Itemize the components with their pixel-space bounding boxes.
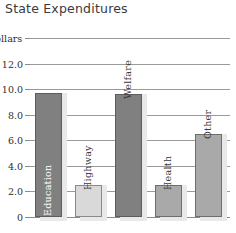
chart-container: State Expenditures 02.04.06.08.010.012.0…	[0, 0, 236, 233]
chart-title: State Expenditures	[5, 1, 128, 16]
y-axis-tick	[25, 166, 30, 167]
bar-welfare[interactable]	[115, 94, 142, 217]
bar-other[interactable]	[195, 134, 222, 217]
y-axis-tick-label: 4.0	[8, 160, 23, 171]
gridline	[30, 38, 230, 39]
y-axis-tick	[25, 140, 30, 141]
plot-area: 02.04.06.08.010.012.014.014.0 billion do…	[30, 38, 230, 217]
bar-label-other: Other	[202, 110, 213, 139]
bar-label-welfare: Welfare	[122, 60, 133, 99]
y-axis-tick	[25, 115, 30, 116]
y-axis-tick-label: 10.0	[2, 84, 23, 95]
y-axis-tick	[25, 89, 30, 90]
bar-label-health: Health	[162, 156, 173, 190]
y-axis-tick	[25, 217, 30, 218]
y-axis-tick-label: 2.0	[8, 186, 23, 197]
bar-label-highway: Highway	[82, 145, 93, 190]
y-axis-tick	[25, 38, 30, 39]
bar-label-education: Education	[42, 164, 53, 216]
y-axis-tick	[25, 64, 30, 65]
y-axis-unit-label: 14.0 billion dollars	[0, 33, 22, 44]
y-axis-tick	[25, 191, 30, 192]
y-axis-tick-label: 0	[17, 212, 23, 223]
y-axis-tick-label: 12.0	[2, 58, 23, 69]
y-axis-tick-label: 8.0	[8, 109, 23, 120]
y-axis-tick-label: 6.0	[8, 135, 23, 146]
